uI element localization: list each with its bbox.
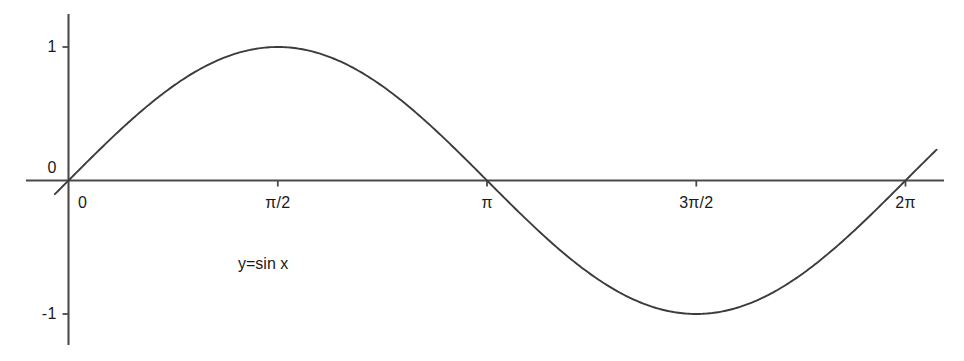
- sine-chart: 0π/2π3π/22π 10-1 y=sin x: [0, 0, 964, 361]
- y-tick-label-1: 0: [47, 160, 56, 176]
- curve-equation-annotation: y=sin x: [238, 256, 288, 272]
- plot-area: [0, 0, 964, 361]
- x-tick-label-4: 2π: [895, 195, 915, 211]
- x-tick-label-2: π: [481, 195, 492, 211]
- x-tick-label-3: 3π/2: [679, 195, 713, 211]
- x-tick-label-0: 0: [78, 195, 87, 211]
- y-tick-label-2: -1: [42, 306, 57, 322]
- y-tick-label-0: 1: [47, 39, 56, 55]
- x-tick-label-1: π/2: [265, 195, 290, 211]
